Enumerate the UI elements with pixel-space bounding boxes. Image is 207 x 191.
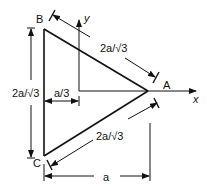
triangle-diagram: B A C y x 2a/√3 2a/√3 2a/√3 a/3 a — [0, 0, 207, 191]
y-axis-label: y — [83, 12, 91, 24]
dimension-label-ca: 2a/√3 — [96, 130, 123, 142]
vertex-label-a: A — [163, 79, 171, 91]
dimension-label-a: a — [103, 171, 110, 183]
vertex-label-b: B — [36, 13, 43, 25]
axes — [79, 20, 196, 91]
dimension-label-a-third: a/3 — [54, 87, 69, 99]
vertex-label-c: C — [33, 157, 41, 169]
dimension-label-ba: 2a/√3 — [100, 42, 127, 54]
x-axis-label: x — [192, 93, 199, 105]
side-ba — [44, 29, 148, 91]
dimension-label-bc: 2a/√3 — [12, 87, 39, 99]
